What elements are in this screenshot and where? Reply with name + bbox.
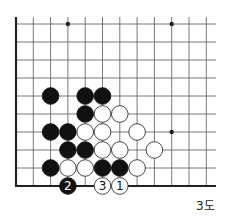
go-board: 231 [0,0,230,220]
white-stone [112,106,129,123]
white-stone [77,160,94,177]
black-stone [94,160,111,177]
diagram-caption: 3도 [196,196,215,213]
white-stone [60,160,77,177]
white-stone [77,124,94,141]
black-stone [60,142,77,159]
white-stone [94,106,111,123]
move-number-label: 3 [99,179,107,193]
white-stone [129,124,146,141]
black-stone [42,160,59,177]
white-stone [146,142,163,159]
black-stone [77,106,94,123]
white-stone [94,142,111,159]
black-stone [42,88,59,105]
move-number-label: 2 [64,179,72,193]
star-point-icon [170,22,174,26]
black-stone [77,88,94,105]
white-stone [129,160,146,177]
black-stone [60,124,77,141]
black-stone [77,142,94,159]
white-stone [94,124,111,141]
black-stone [112,160,129,177]
black-stone [94,88,111,105]
black-stone [42,124,59,141]
move-number-label: 1 [116,179,124,193]
star-point-icon [66,22,70,26]
white-stone [112,142,129,159]
star-point-icon [170,130,174,134]
